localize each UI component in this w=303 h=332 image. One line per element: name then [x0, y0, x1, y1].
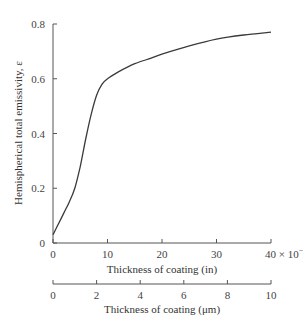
- y-tick-label: 0.4: [31, 128, 45, 140]
- x-tick-label: 30: [211, 248, 223, 260]
- x-tick-label: 0: [50, 248, 56, 260]
- y-axis-label: Hemispherical total emissivity, ε: [12, 61, 24, 205]
- secondary-x-tick-label: 8: [225, 289, 231, 301]
- secondary-x-tick-label: 2: [94, 289, 100, 301]
- x-axis-label: Thickness of coating (in): [107, 263, 218, 276]
- secondary-x-ticks: 0246810: [50, 280, 277, 301]
- secondary-x-tick-label: 6: [181, 289, 187, 301]
- emissivity-chart: 00.20.40.60.8 010203040 × 10−5 0246810 H…: [0, 0, 303, 332]
- secondary-x-tick-label: 0: [50, 289, 56, 301]
- y-tick-label: 0.6: [31, 73, 45, 85]
- y-tick-label: 0.8: [31, 18, 45, 30]
- secondary-x-tick-label: 10: [266, 289, 278, 301]
- x-tick-label: 10: [102, 248, 114, 260]
- secondary-x-tick-label: 4: [137, 289, 143, 301]
- emissivity-curve: [53, 32, 271, 235]
- y-tick-label: 0: [40, 237, 46, 249]
- x-ticks: 010203040 × 10−5: [50, 239, 303, 260]
- y-tick-label: 0.2: [31, 182, 45, 194]
- x-tick-label: 20: [157, 248, 169, 260]
- x-tick-label: 40 × 10−5: [265, 246, 303, 260]
- secondary-x-axis-label: Thickness of coating (μm): [104, 303, 221, 316]
